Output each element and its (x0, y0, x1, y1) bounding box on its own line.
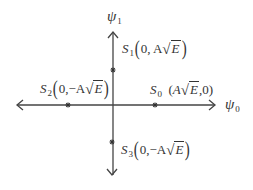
marker-s0-icon (153, 103, 158, 108)
point-label-s1: S1(0, A√E) (122, 38, 187, 58)
point-s3-close-paren: ) (185, 139, 190, 159)
marker-s3-icon (110, 140, 115, 145)
point-s2-open-paren: ( (53, 78, 58, 98)
down-arrowhead-icon (107, 169, 117, 175)
point-s3-name: S (121, 142, 128, 157)
point-s1-open-paren: ( (135, 38, 140, 58)
point-s3-prefix: 0,−A (140, 142, 166, 157)
point-label-s2: S2(0,−A√E) (40, 78, 110, 98)
point-s2-close-paren: ) (104, 78, 109, 98)
point-s0-separator: ,0 (199, 82, 209, 97)
point-label-s0: S0 (A√E,0) (150, 83, 213, 99)
point-s0-radicand: E (189, 81, 199, 97)
point-s1-subscript: 1 (130, 48, 135, 58)
point-s2-subscript: 2 (48, 88, 53, 98)
point-s0-amplitude: A (173, 82, 181, 97)
axis-label-psi0-symbol: ψ (225, 96, 234, 112)
point-s2-name: S (40, 81, 47, 96)
point-s1-sqrt: √E (162, 42, 180, 57)
point-s0-sqrt: √E (181, 83, 199, 98)
point-s3-radicand: E (174, 141, 184, 157)
point-s0-close-paren: ) (209, 82, 213, 97)
point-s2-radicand: E (93, 80, 103, 96)
sqrt-icon: √ (162, 41, 170, 57)
axis-label-psi0-subscript: 0 (235, 104, 240, 114)
point-s3-open-paren: ( (134, 139, 139, 159)
vertical-axis-psi1 (107, 32, 118, 175)
axis-label-psi1-subscript: 1 (117, 16, 122, 26)
point-s3-subscript: 3 (129, 149, 134, 159)
horizontal-axis-psi0 (17, 100, 215, 110)
marker-s1-icon (111, 68, 116, 73)
marker-s2-icon (66, 103, 71, 108)
point-label-s3: S3(0,−A√E) (121, 139, 191, 159)
point-s0-subscript: 0 (158, 89, 163, 99)
point-s2-sqrt: √E (85, 82, 103, 97)
sqrt-icon: √ (181, 82, 189, 98)
point-s3-sqrt: √E (166, 143, 184, 158)
axis-label-psi1-symbol: ψ (107, 8, 116, 24)
axis-label-psi0: ψ0 (225, 97, 240, 114)
constellation-axes (0, 0, 253, 190)
signal-constellation-diagram: ψ1 ψ0 S1(0, A√E) S2(0,−A√E) S0 (A√E,0) S… (0, 0, 253, 190)
point-s1-radicand: E (171, 40, 181, 56)
point-s1-close-paren: ) (181, 38, 186, 58)
point-s0-name: S (150, 82, 157, 97)
point-s2-prefix: 0,−A (59, 81, 85, 96)
point-s1-prefix: 0, A (141, 41, 163, 56)
point-s1-name: S (122, 41, 129, 56)
axis-label-psi1: ψ1 (107, 9, 122, 26)
